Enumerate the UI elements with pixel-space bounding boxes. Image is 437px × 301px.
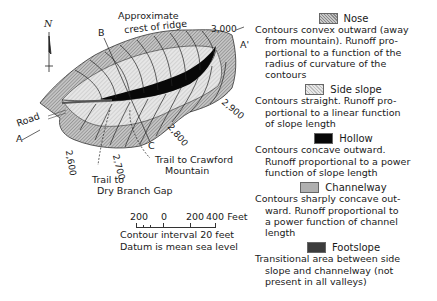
legend-text: Contours sharply concave out- bbox=[255, 193, 437, 204]
scale-bar: 200 0 200 400 Feet Contour interval 20 f… bbox=[120, 211, 255, 252]
trail-dry-branch-label-1: Trail to bbox=[92, 174, 124, 185]
nose-swatch-icon bbox=[319, 13, 338, 24]
legend-text: contours bbox=[265, 69, 437, 80]
legend-title: Footslope bbox=[332, 242, 380, 253]
elevation-3000: 3,000 bbox=[211, 24, 237, 34]
legend-text: function of slope length bbox=[265, 167, 437, 178]
scale-tick-400: 400 Feet bbox=[206, 211, 248, 222]
legend-item-footslope: Footslope Transitional area between side… bbox=[250, 241, 437, 287]
legend-text: of slope length bbox=[265, 118, 437, 129]
trail-dry-branch-label-2: Dry Branch Gap bbox=[97, 185, 173, 196]
trail-crawford-label-2: Mountain bbox=[165, 165, 209, 176]
north-label: N bbox=[44, 18, 52, 29]
legend-text: portional to a function of the bbox=[265, 47, 437, 58]
legend-text: Contours concave outward. bbox=[255, 144, 437, 155]
legend-text: Contours straight. Runoff pro- bbox=[255, 95, 437, 106]
scale-tick-200: 200 bbox=[186, 211, 204, 222]
legend-item-hollow: Hollow Contours concave outward. Runoff … bbox=[250, 132, 437, 178]
legend-title: Side slope bbox=[330, 84, 381, 95]
scale-tick-0: 0 bbox=[161, 211, 167, 222]
legend-text: portional to a linear function bbox=[265, 107, 437, 118]
section-c-label: C bbox=[148, 140, 155, 151]
section-a-prime-label: A' bbox=[240, 39, 249, 50]
side-slope-swatch-icon bbox=[305, 84, 324, 95]
legend-item-channelway: Channelway Contours sharply concave out-… bbox=[250, 181, 437, 238]
trail-crawford-label-1: Trail to Crawford bbox=[155, 154, 233, 165]
north-arrow-icon bbox=[45, 32, 53, 72]
legend-text: Runoff proportional to a power bbox=[265, 156, 437, 167]
legend-title: Nose bbox=[344, 13, 369, 24]
section-a-label: A bbox=[16, 133, 23, 144]
contour-interval-note: Contour interval 20 feet bbox=[120, 229, 255, 240]
scale-tick-200-left: 200 bbox=[130, 211, 148, 222]
legend-item-side-slope: Side slope Contours straight. Runoff pro… bbox=[250, 83, 437, 129]
legend-title: Channelway bbox=[325, 182, 386, 193]
legend-text: Contours convex outward (away bbox=[255, 24, 437, 35]
channelway-swatch-icon bbox=[300, 182, 319, 193]
legend-text: slope and channelway (not bbox=[265, 265, 437, 276]
legend-text: ward. Runoff proportional to bbox=[265, 205, 437, 216]
legend-text: length bbox=[265, 227, 437, 238]
datum-note: Datum is mean sea level bbox=[120, 241, 255, 252]
legend-title: Hollow bbox=[339, 133, 373, 144]
legend: Nose Contours convex outward (away from … bbox=[250, 12, 437, 290]
scale-bar-graphic bbox=[136, 222, 216, 228]
legend-text: Transitional area between side bbox=[255, 253, 437, 264]
section-b-label: B bbox=[98, 27, 105, 38]
legend-item-nose: Nose Contours convex outward (away from … bbox=[250, 12, 437, 80]
legend-text: radius of curvature of the bbox=[265, 58, 437, 69]
legend-text: from mountain). Runoff pro- bbox=[265, 35, 437, 46]
footslope-swatch-icon bbox=[307, 242, 326, 253]
legend-text: a power function of channel bbox=[265, 216, 437, 227]
legend-text: present in all valleys) bbox=[265, 276, 437, 287]
hollow-swatch-icon bbox=[314, 133, 333, 144]
